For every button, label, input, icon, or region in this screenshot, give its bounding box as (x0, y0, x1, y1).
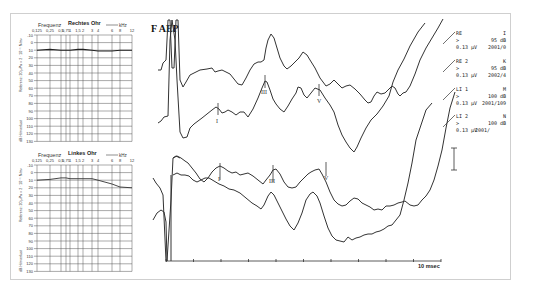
legend-scale: 0.13 µV (456, 127, 477, 134)
svg-text:0,25: 0,25 (46, 158, 55, 163)
svg-text:50: 50 (29, 208, 34, 213)
svg-text:2: 2 (82, 28, 85, 33)
freq-ticks: 0,1250,250,50,7511,52346812 (32, 158, 135, 163)
svg-text:80: 80 (29, 101, 34, 106)
svg-text:100: 100 (26, 116, 33, 121)
audiogram-title: Linkes Ohr (68, 150, 98, 156)
plot-title: F AEP (151, 23, 179, 34)
trace-legend: RE I > 95 dB 0.13 µV 2001/0 RE 2 K > 95 … (443, 30, 506, 134)
trace-re (180, 19, 443, 103)
legend-label: LI 2 (456, 113, 468, 119)
svg-text:4: 4 (97, 158, 100, 163)
audiogram-left: Frequenz Linkes Ohr kHz 0,1250,250,50,75… (19, 150, 135, 274)
svg-text:-10: -10 (27, 33, 34, 38)
legend-scale: 0.13 µV (456, 100, 477, 107)
svg-text:0,25: 0,25 (46, 28, 55, 33)
svg-text:120: 120 (26, 131, 33, 136)
legend-level: 95 dB (491, 37, 506, 43)
svg-text:4: 4 (97, 28, 100, 33)
y-ticks: -100102030405060708090100110120130 (26, 33, 33, 144)
grid (34, 165, 132, 271)
svg-text:12: 12 (130, 158, 135, 163)
svg-text:6: 6 (111, 28, 114, 33)
hearing-curve-left (37, 178, 132, 188)
svg-text:60: 60 (29, 86, 34, 91)
svg-text:70: 70 (29, 93, 34, 98)
aep-plot: F AEP I III V I III V (151, 19, 457, 269)
legend-stim: > (456, 120, 459, 126)
marker-i-li1: I (218, 176, 220, 182)
svg-text:90: 90 (29, 109, 34, 114)
svg-text:60: 60 (29, 216, 34, 221)
y-ticks: -100102030405060708090100110120130 (26, 163, 33, 274)
svg-text:50: 50 (29, 78, 34, 83)
legend-code: N (503, 113, 506, 119)
svg-text:-10: -10 (27, 163, 34, 168)
svg-text:0: 0 (31, 40, 34, 45)
svg-text:130: 130 (26, 139, 33, 144)
svg-text:110: 110 (27, 254, 34, 259)
legend-id: 2001/0 (488, 44, 506, 50)
y-label-hearing-loss: dB Hörverlust (19, 120, 23, 142)
legend-scale: 0.13 µV (456, 72, 477, 79)
y-label-reference: Referenz: 20 µPa = 2 · 10⁻⁵ N/m² (19, 38, 23, 92)
svg-text:80: 80 (29, 231, 34, 236)
legend-code: I (503, 30, 506, 36)
svg-text:20: 20 (29, 55, 34, 60)
svg-text:1,5: 1,5 (75, 28, 81, 33)
legend-level: 100 dB (488, 120, 506, 126)
legend-stim: > (456, 65, 459, 71)
time-axis-label: 10 msec (418, 263, 440, 269)
legend-label: LI 1 (456, 86, 468, 92)
legend-level: 95 dB (491, 65, 506, 71)
time-axis (166, 259, 441, 262)
svg-text:3: 3 (91, 28, 94, 33)
svg-text:10: 10 (29, 48, 34, 53)
freq-ticks: 0,1250,250,50,7511,52346812 (32, 28, 135, 33)
svg-text:2: 2 (82, 158, 85, 163)
marker-iii-li1: III (269, 178, 275, 184)
y-label-hearing-loss: dB Hörverlust (19, 250, 23, 272)
svg-text:6: 6 (111, 158, 114, 163)
svg-text:20: 20 (29, 185, 34, 190)
marker-v-li1: V (324, 175, 329, 181)
svg-text:30: 30 (29, 63, 34, 68)
svg-text:12: 12 (130, 28, 135, 33)
svg-text:8: 8 (119, 28, 122, 33)
svg-text:0,125: 0,125 (32, 158, 43, 163)
legend-code: K (503, 58, 506, 64)
svg-text:3: 3 (91, 158, 94, 163)
marker-iii-re2: III (261, 89, 267, 95)
svg-text:0,125: 0,125 (32, 28, 43, 33)
trace-re2 (158, 20, 425, 152)
legend-id: 2002/4 (488, 72, 506, 78)
y-label-reference: Referenz: 20 µPa = 2 · 10⁻⁵ N/m² (19, 168, 23, 222)
svg-text:30: 30 (29, 193, 34, 198)
svg-text:10: 10 (29, 178, 34, 183)
aep-report: Frequenz Rechtes Ohr kHz 0,1250,250,50,7… (0, 0, 533, 287)
amplitude-scale-bar (451, 148, 457, 170)
legend-stim: > (456, 37, 459, 43)
legend-label: RE (456, 30, 462, 36)
marker-i-re2: I (216, 118, 218, 124)
svg-text:70: 70 (29, 223, 34, 228)
legend-scale: 0.13 µV (456, 44, 477, 51)
svg-text:100: 100 (26, 246, 33, 251)
svg-text:1,5: 1,5 (75, 158, 81, 163)
legend-id: 2001/109 (482, 100, 506, 106)
marker-v-re2: V (317, 98, 322, 104)
legend-label: RE 2 (456, 58, 468, 64)
svg-text:40: 40 (29, 201, 34, 206)
svg-text:1: 1 (69, 158, 72, 163)
svg-text:40: 40 (29, 71, 34, 76)
svg-text:8: 8 (119, 158, 122, 163)
svg-text:110: 110 (27, 124, 34, 129)
legend-id: 2001/ (475, 127, 490, 133)
legend-stim: > (456, 93, 459, 99)
legend-code: M (503, 86, 506, 92)
audiogram-title: Rechtes Ohr (68, 20, 102, 26)
svg-text:1: 1 (69, 28, 72, 33)
legend-level: 100 dB (488, 93, 506, 99)
svg-text:0: 0 (31, 170, 34, 175)
svg-text:90: 90 (29, 239, 34, 244)
